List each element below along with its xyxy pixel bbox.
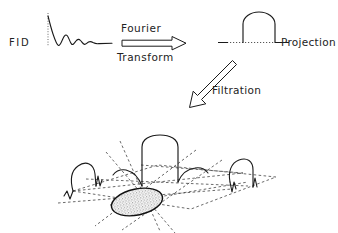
profile-right <box>229 159 257 192</box>
fourier-transform-arrow <box>122 37 186 50</box>
filtered-backprojection-diagram <box>58 135 276 233</box>
ray-1 <box>86 179 248 186</box>
profile-left-lobe <box>96 176 102 186</box>
profile-center-shape <box>142 135 178 186</box>
plane-outline <box>73 165 276 209</box>
projection-label: Projection <box>281 36 336 48</box>
profile-left <box>64 163 102 199</box>
fid-label: FID <box>9 37 30 48</box>
profile-center-left-lobe <box>113 170 142 186</box>
profile-right-lobe <box>230 182 236 192</box>
ellipse-shape <box>109 184 165 220</box>
projection-profile-shape <box>243 12 275 43</box>
figure-canvas: FID Fourier Transform Projection Filtrat… <box>0 0 338 233</box>
filtration-label: Filtration <box>212 84 261 96</box>
profile-left-shape <box>71 163 96 191</box>
projection-profile <box>218 12 289 43</box>
profile-right-foot <box>253 178 257 187</box>
dashed-projection-plane <box>58 141 276 233</box>
stippled-ellipse-object <box>109 184 165 220</box>
ray-2 <box>73 173 243 191</box>
fid-waveform <box>48 13 112 46</box>
transform-label: Transform <box>116 51 174 63</box>
profile-left-foot <box>64 191 73 199</box>
fourier-transform-arrow-shape <box>122 37 186 50</box>
fourier-label: Fourier <box>121 22 161 34</box>
fid-curve <box>48 16 112 46</box>
